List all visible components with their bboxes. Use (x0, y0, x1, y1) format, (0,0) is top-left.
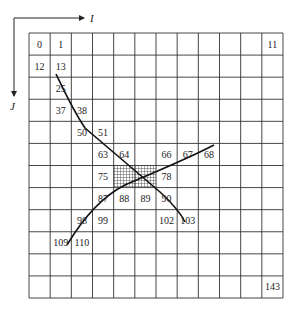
cell-label: 66 (162, 149, 172, 160)
cell-label: 143 (265, 281, 280, 292)
cell-label: 51 (98, 127, 108, 138)
cell-label: 90 (162, 193, 172, 204)
cell-label: 13 (56, 61, 66, 72)
cell-label: 12 (35, 61, 45, 72)
cell-label: 63 (98, 149, 108, 160)
cell-label: 11 (268, 39, 278, 50)
cell-label: 102 (159, 215, 174, 226)
j-axis-label: J (10, 100, 16, 112)
cell-label: 25 (56, 83, 66, 94)
cell-label: 89 (140, 193, 150, 204)
cell-label: 98 (77, 215, 87, 226)
cell-label: 68 (204, 149, 214, 160)
cell-label: 0 (37, 39, 42, 50)
i-axis-label: I (89, 12, 95, 24)
cell-label: 99 (98, 215, 108, 226)
cell-label: 1 (58, 39, 63, 50)
cell-label: 103 (180, 215, 195, 226)
cell-label: 87 (98, 193, 108, 204)
cell-label: 38 (77, 105, 87, 116)
cell-label: 110 (75, 237, 90, 248)
cell-label: 78 (162, 171, 172, 182)
cell-label: 37 (56, 105, 66, 116)
cell-label: 67 (183, 149, 193, 160)
cell-label: 109 (53, 237, 68, 248)
cell-label: 64 (119, 149, 129, 160)
grid-diagram: I J 011112132537385051636466676875788788… (0, 0, 292, 309)
cell-label: 75 (98, 171, 108, 182)
cell-label: 88 (119, 193, 129, 204)
cell-label: 50 (77, 127, 87, 138)
axes: I J (10, 12, 95, 112)
grid-lines (29, 33, 283, 298)
